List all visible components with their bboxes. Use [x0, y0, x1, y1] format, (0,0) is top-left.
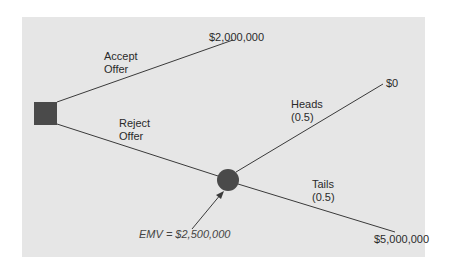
- tails-label-line1: Tails: [312, 178, 335, 191]
- tails-probability: (0.5): [312, 191, 335, 204]
- heads-label-line1: Heads: [291, 98, 323, 111]
- heads-probability: (0.5): [291, 111, 323, 124]
- emv-arrow-head: [216, 191, 224, 199]
- decision-node-square: [34, 102, 57, 125]
- accept-payoff: $2,000,000: [209, 31, 264, 44]
- accept-branch-line: [57, 40, 233, 102]
- accept-label-line1: Accept: [104, 50, 138, 63]
- heads-payoff: $0: [386, 77, 398, 90]
- reject-label-line2: Offer: [119, 130, 150, 143]
- accept-offer-label: Accept Offer: [104, 50, 138, 76]
- heads-label: Heads (0.5): [291, 98, 323, 124]
- reject-offer-label: Reject Offer: [119, 117, 150, 143]
- emv-arrow-line: [192, 194, 221, 229]
- reject-label-line1: Reject: [119, 117, 150, 130]
- chance-node-circle: [217, 169, 239, 191]
- emv-annotation: EMV = $2,500,000: [139, 228, 230, 241]
- accept-label-line2: Offer: [104, 63, 138, 76]
- tails-payoff: $5,000,000: [374, 233, 429, 246]
- tails-label: Tails (0.5): [312, 178, 335, 204]
